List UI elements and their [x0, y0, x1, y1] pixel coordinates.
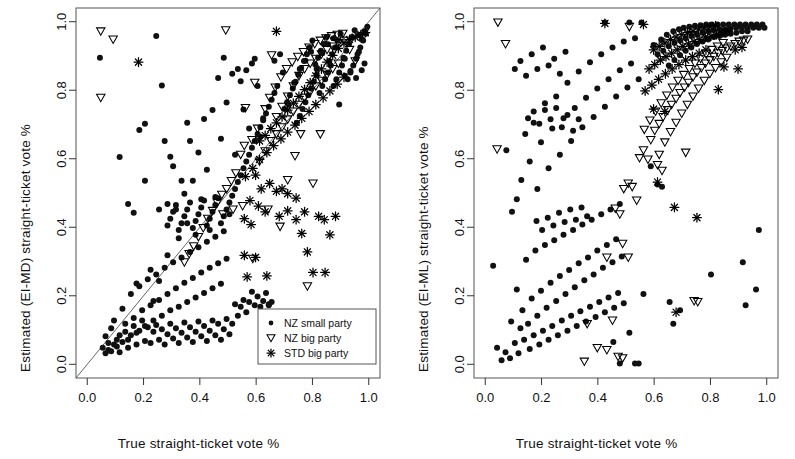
marker-filled-circle — [534, 186, 540, 192]
marker-asterisk — [711, 21, 720, 30]
marker-filled-circle — [567, 206, 573, 212]
marker-filled-circle — [176, 304, 182, 310]
marker-filled-circle — [117, 349, 123, 355]
marker-filled-circle — [572, 284, 578, 290]
marker-filled-circle — [611, 305, 617, 311]
marker-filled-circle — [573, 217, 579, 223]
marker-filled-circle — [162, 265, 168, 271]
marker-filled-circle — [190, 225, 196, 231]
marker-filled-circle — [538, 288, 544, 294]
marker-filled-circle — [218, 220, 224, 226]
marker-filled-circle — [260, 298, 266, 304]
ei-ml-plot: 0.00.20.40.60.81.00.00.20.40.60.81.0 — [398, 0, 795, 459]
marker-filled-circle — [164, 331, 170, 337]
y-tick-label: 0.4 — [452, 218, 467, 236]
marker-asterisk — [248, 164, 257, 173]
marker-filled-circle — [179, 330, 185, 336]
marker-filled-circle — [621, 300, 627, 306]
ei-ml-panel: 0.00.20.40.60.81.00.00.20.40.60.81.0 Tru… — [398, 0, 795, 459]
marker-filled-circle — [114, 337, 120, 343]
marker-asterisk — [720, 63, 729, 72]
marker-filled-circle — [602, 104, 608, 110]
marker-asterisk — [641, 87, 650, 96]
marker-asterisk — [702, 45, 711, 54]
marker-filled-circle — [739, 28, 745, 34]
marker-filled-circle — [542, 107, 548, 113]
marker-filled-circle — [210, 285, 216, 291]
marker-filled-circle — [122, 321, 128, 327]
marker-filled-circle — [212, 332, 218, 338]
marker-filled-circle — [243, 67, 249, 73]
marker-filled-circle — [529, 51, 535, 57]
marker-filled-circle — [533, 218, 539, 224]
marker-filled-circle — [583, 95, 589, 101]
marker-filled-circle — [190, 178, 196, 184]
marker-filled-circle — [184, 299, 190, 305]
marker-asterisk — [300, 207, 309, 216]
marker-filled-circle — [125, 201, 131, 207]
y-axis-title-right: Estimated (EI-ML) straight-ticket vote % — [416, 126, 431, 372]
marker-filled-circle — [598, 211, 604, 217]
marker-filled-circle — [207, 265, 213, 271]
marker-asterisk — [305, 107, 314, 116]
marker-asterisk — [277, 134, 286, 143]
marker-filled-circle — [108, 325, 114, 331]
marker-filled-circle — [243, 309, 249, 315]
marker-asterisk — [600, 19, 609, 28]
marker-filled-circle — [514, 196, 520, 202]
marker-filled-circle — [347, 69, 353, 75]
marker-asterisk — [283, 206, 292, 215]
marker-filled-circle — [352, 27, 358, 33]
ei-md-panel: 0.00.20.40.60.81.00.00.20.40.60.81.0NZ s… — [0, 0, 397, 459]
marker-filled-circle — [613, 236, 619, 242]
marker-filled-circle — [523, 73, 529, 79]
marker-filled-circle — [610, 339, 616, 345]
marker-asterisk — [295, 92, 304, 101]
marker-asterisk — [241, 172, 250, 181]
marker-filled-circle — [164, 252, 170, 258]
marker-filled-circle — [538, 139, 544, 145]
marker-filled-circle — [540, 44, 546, 50]
y-tick-label: 0.4 — [54, 218, 69, 236]
marker-filled-circle — [221, 228, 227, 234]
marker-asterisk — [283, 106, 292, 115]
marker-filled-circle — [246, 152, 252, 158]
marker-asterisk — [653, 178, 662, 187]
marker-filled-circle — [359, 67, 365, 73]
marker-filled-circle — [235, 313, 241, 319]
marker-filled-circle — [606, 76, 612, 82]
marker-filled-circle — [600, 265, 606, 271]
marker-filled-circle — [201, 290, 207, 296]
marker-filled-circle — [572, 105, 578, 111]
marker-asterisk — [272, 27, 281, 36]
marker-filled-circle — [628, 61, 634, 67]
marker-filled-circle — [215, 75, 221, 81]
marker-asterisk — [300, 85, 309, 94]
marker-filled-circle — [125, 345, 131, 351]
marker-filled-circle — [548, 116, 554, 122]
marker-asterisk — [693, 213, 702, 222]
marker-asterisk — [292, 215, 301, 224]
marker-filled-circle — [195, 211, 201, 217]
x-axis-title-left: True straight-ticket vote % — [0, 436, 397, 451]
marker-filled-circle — [260, 117, 266, 123]
marker-filled-circle — [243, 158, 249, 164]
marker-filled-circle — [232, 301, 238, 307]
marker-filled-circle — [594, 248, 600, 254]
marker-filled-circle — [170, 209, 176, 215]
marker-filled-circle — [176, 235, 182, 241]
marker-filled-circle — [179, 254, 185, 260]
marker-filled-circle — [229, 321, 235, 327]
marker-filled-circle — [515, 350, 521, 356]
marker-asterisk — [255, 155, 264, 164]
marker-filled-circle — [568, 138, 574, 144]
marker-filled-circle — [336, 102, 342, 108]
marker-filled-circle — [181, 280, 187, 286]
marker-filled-circle — [142, 121, 148, 127]
marker-filled-circle — [252, 302, 258, 308]
marker-filled-circle — [226, 200, 232, 206]
marker-filled-circle — [750, 25, 756, 31]
marker-filled-circle — [356, 49, 362, 55]
marker-filled-circle — [293, 79, 299, 85]
marker-filled-circle — [564, 112, 570, 118]
